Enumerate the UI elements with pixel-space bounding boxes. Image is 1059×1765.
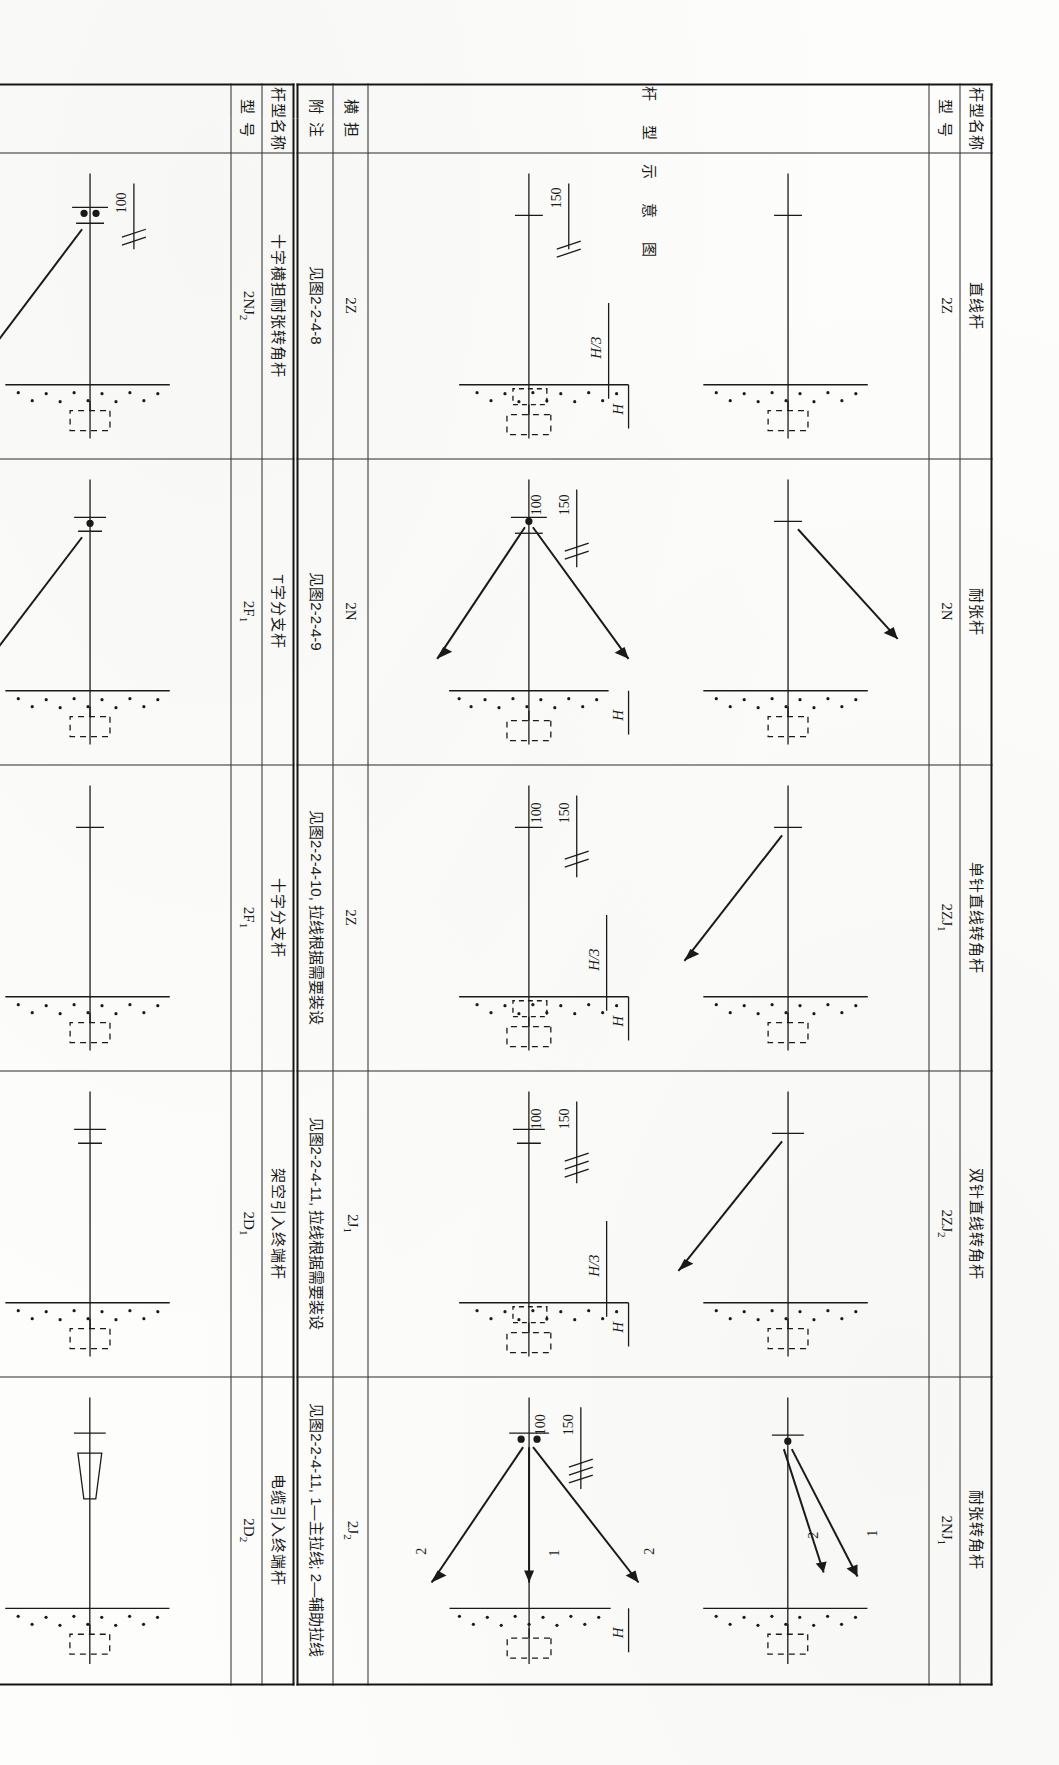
col-name-2: 十字分支杆 [262, 764, 294, 1070]
scanned-page: 杆型名称 直线杆 耐张杆 单针直线转角杆 双针直线转角杆 耐张转角杆 型 号 2… [0, 0, 1059, 1765]
row-label-model: 型 号 [231, 84, 262, 152]
col-model-3: 2D1 [231, 1070, 262, 1376]
col-note-3: 见图2-2-4-11, 拉线根据需要装设 [297, 1070, 333, 1376]
svg-text:H: H [609, 708, 625, 721]
svg-text:100: 100 [113, 191, 128, 212]
diagram-cell-4: 1 2 [368, 1376, 929, 1684]
row-label-name: 杆型名称 [262, 84, 294, 152]
col-name-1: T字分支杆 [262, 458, 294, 764]
col-model-4: 2NJ1 [929, 1376, 960, 1684]
diagram-cell-2: 150 100 H/3 H [368, 764, 929, 1070]
svg-text:H/3: H/3 [585, 947, 601, 970]
row-label-crossarm: 横 担 [333, 84, 368, 152]
svg-text:150: 150 [560, 1413, 575, 1434]
diagram-cell-3: 150 100 H/3 H [368, 1070, 929, 1376]
svg-text:H/3: H/3 [587, 335, 603, 358]
pole-type-table-top: 杆型名称 直线杆 耐张杆 单针直线转角杆 双针直线转角杆 耐张转角杆 型 号 2… [296, 83, 992, 1685]
col-name-4: 耐张转角杆 [960, 1376, 992, 1684]
svg-text:1: 1 [865, 1529, 880, 1536]
table-row-diagram: 杆 型 示 意 图 100 [0, 84, 231, 1684]
table-row-model: 型 号 2NJ2 2F1 2F1 2D1 2D2 [231, 84, 262, 1684]
col-name-0: 十字横担耐张转角杆 [262, 152, 294, 458]
col-model-1: 2F1 [231, 458, 262, 764]
col-model-4: 2D2 [231, 1376, 262, 1684]
col-model-0: 2Z [929, 152, 960, 458]
col-crossarm-4: 2J2 [333, 1376, 368, 1684]
svg-text:150: 150 [556, 1107, 571, 1128]
col-note-0: 见图2-2-4-8 [297, 152, 333, 458]
col-crossarm-2: 2Z [333, 764, 368, 1070]
svg-text:150: 150 [548, 186, 563, 207]
col-note-1: 见图2-2-4-9 [297, 458, 333, 764]
svg-text:2: 2 [805, 1531, 820, 1538]
diagram-cell-0: 100 [0, 152, 231, 458]
diagram-cell-3: 150 100 H [0, 1070, 231, 1376]
svg-text:2: 2 [413, 1547, 428, 1554]
col-crossarm-1: 2N [333, 458, 368, 764]
svg-text:100: 100 [533, 1413, 548, 1434]
col-crossarm-0: 2Z [333, 152, 368, 458]
col-name-4: 电缆引入终端杆 [262, 1376, 294, 1684]
col-name-3: 双针直线转角杆 [960, 1070, 992, 1376]
col-model-1: 2N [929, 458, 960, 764]
svg-text:H/3: H/3 [585, 1253, 601, 1276]
svg-text:150: 150 [556, 493, 571, 514]
svg-text:150: 150 [556, 801, 571, 822]
table-row-name: 杆型名称 十字横担耐张转角杆 T字分支杆 十字分支杆 架空引入终端杆 电缆引入终… [262, 84, 294, 1684]
diagram-cell-1: 150 100 H [368, 458, 929, 764]
diagram-cell-1: 150 100 300 H [0, 458, 231, 764]
diagram-cell-4: 150 100 H [0, 1376, 231, 1684]
col-name-2: 单针直线转角杆 [960, 764, 992, 1070]
svg-text:100: 100 [528, 801, 543, 822]
table-row-note: 附 注 见图2-2-4-8 见图2-2-4-9 见图2-2-4-10, 拉线根据… [297, 84, 333, 1684]
col-model-2: 2ZJ1 [929, 764, 960, 1070]
svg-text:H: H [609, 1320, 625, 1333]
svg-text:2: 2 [642, 1547, 657, 1554]
pole-type-table-bottom: 杆型名称 十字横担耐张转角杆 T字分支杆 十字分支杆 架空引入终端杆 电缆引入终… [0, 83, 294, 1685]
col-note-2: 见图2-2-4-10, 拉线根据需要装设 [297, 764, 333, 1070]
row-label-diagram: 杆 型 示 意 图 [368, 84, 929, 152]
col-name-0: 直线杆 [960, 152, 992, 458]
row-label-name: 杆型名称 [960, 84, 992, 152]
svg-text:100: 100 [528, 1107, 543, 1128]
table-row-name: 杆型名称 直线杆 耐张杆 单针直线转角杆 双针直线转角杆 耐张转角杆 [960, 84, 992, 1684]
col-name-3: 架空引入终端杆 [262, 1070, 294, 1376]
row-label-diagram: 杆 型 示 意 图 [0, 84, 231, 152]
rotated-table-wrapper: 杆型名称 直线杆 耐张杆 单针直线转角杆 双针直线转角杆 耐张转角杆 型 号 2… [67, 83, 992, 1683]
col-model-2: 2F1 [231, 764, 262, 1070]
table-row-diagram: 杆 型 示 意 图 [368, 84, 929, 1684]
col-crossarm-3: 2J1 [333, 1070, 368, 1376]
table-row-model: 型 号 2Z 2N 2ZJ1 2ZJ2 2NJ1 [929, 84, 960, 1684]
row-label-note: 附 注 [297, 84, 333, 152]
table-row-crossarm: 横 担 2Z 2N 2Z 2J1 2J2 [333, 84, 368, 1684]
col-model-3: 2ZJ2 [929, 1070, 960, 1376]
svg-text:H: H [609, 1014, 625, 1027]
col-note-4: 见图2-2-4-11, 1—主拉线; 2—辅助拉线 [297, 1376, 333, 1684]
svg-text:100: 100 [528, 493, 543, 514]
col-model-0: 2NJ2 [231, 152, 262, 458]
diagram-cell-2: 150 300 H [0, 764, 231, 1070]
col-name-1: 耐张杆 [960, 458, 992, 764]
row-label-model: 型 号 [929, 84, 960, 152]
svg-text:H: H [609, 402, 625, 415]
svg-text:1: 1 [546, 1549, 561, 1556]
svg-text:H: H [609, 1625, 625, 1638]
